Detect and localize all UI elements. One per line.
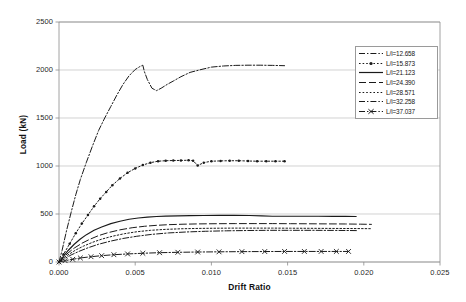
series-marker-dot [119, 177, 122, 180]
series-marker-dot [256, 160, 259, 163]
legend-label-6: L/i=37.037 [386, 108, 415, 115]
series-marker-dot [111, 184, 114, 187]
legend-swatch-2 [358, 68, 384, 77]
legend-item-2[interactable]: L/i=21.123 [358, 68, 435, 78]
series-marker-dot [238, 159, 241, 162]
series-marker-dot [283, 160, 286, 163]
legend-item-4[interactable]: L/i=28.571 [358, 87, 435, 97]
series-marker-dot [81, 222, 84, 225]
series-marker-dot [68, 243, 71, 246]
series-marker-dot [210, 160, 213, 163]
chart-container: 05001000150020002500 0.0000.0050.0100.01… [0, 0, 466, 302]
legend-swatch-3 [358, 78, 384, 87]
series-marker-dot [99, 197, 102, 200]
x-axis-tick-label: 0.015 [268, 268, 308, 277]
legend-item-1[interactable]: L/i=15.873 [358, 59, 435, 69]
chart-legend: L/i=12.658L/i=15.873L/i=21.123L/i=24.390… [355, 46, 438, 119]
x-axis-tick-label: 0.025 [420, 268, 460, 277]
y-axis-tick-label: 2500 [19, 17, 53, 26]
series-marker-dot [196, 164, 199, 167]
x-axis-tick-label: 0.020 [344, 268, 384, 277]
series-marker-dot [87, 214, 90, 217]
series-marker-dot [126, 171, 129, 174]
series-marker-dot [149, 161, 152, 164]
legend-item-3[interactable]: L/i=24.390 [358, 78, 435, 88]
legend-swatch-0 [358, 49, 384, 58]
series-marker-dot [164, 159, 167, 162]
series-marker-dot [247, 160, 250, 163]
series-marker-dot [75, 232, 78, 235]
legend-item-5[interactable]: L/i=32.258 [358, 97, 435, 107]
legend-swatch-5 [358, 97, 384, 106]
y-axis-title: Load (kN) [19, 95, 28, 175]
series-marker-dot [134, 167, 137, 170]
y-axis-tick-label: 2000 [19, 65, 53, 74]
x-axis-tick-label: 0.005 [115, 268, 155, 277]
series-marker-dot [142, 164, 145, 167]
legend-swatch-6 [358, 107, 384, 116]
legend-label-4: L/i=28.571 [386, 89, 415, 96]
series-line-1 [59, 160, 285, 262]
series-marker-dot [105, 191, 108, 194]
series-marker-dot [219, 160, 222, 163]
series-marker-dot [157, 160, 160, 163]
legend-label-0: L/i=12.658 [386, 50, 415, 57]
legend-label-2: L/i=21.123 [386, 69, 415, 76]
y-axis-tick-label: 500 [19, 209, 53, 218]
series-marker-cross [99, 253, 104, 258]
series-marker-dot [187, 159, 190, 162]
y-axis-tick-label: 0 [19, 257, 53, 266]
series-marker-dot [180, 159, 183, 162]
legend-label-5: L/i=32.258 [386, 98, 415, 105]
legend-swatch-1 [358, 59, 384, 68]
series-marker-dot [203, 161, 206, 164]
legend-item-0[interactable]: L/i=12.658 [358, 49, 435, 59]
series-marker-dot [172, 159, 175, 162]
series-marker-dot [192, 159, 195, 162]
legend-label-1: L/i=15.873 [386, 60, 415, 67]
x-axis-tick-label: 0.000 [39, 268, 79, 277]
series-marker-dot [93, 205, 96, 208]
x-axis-tick-label: 0.010 [191, 268, 231, 277]
x-axis-title: Drift Ratio [59, 282, 440, 292]
legend-swatch-4 [358, 88, 384, 97]
data-series-group [57, 65, 372, 264]
series-marker-dot [265, 160, 268, 163]
legend-item-6[interactable]: L/i=37.037 [358, 107, 435, 117]
series-marker-dot [228, 159, 231, 162]
legend-label-3: L/i=24.390 [386, 79, 415, 86]
series-marker-dot [274, 160, 277, 163]
